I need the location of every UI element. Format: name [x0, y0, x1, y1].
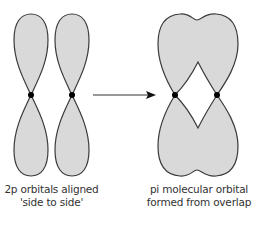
caption-line: 2p orbitals aligned [0, 183, 103, 196]
nucleus-right-1 [172, 92, 178, 98]
caption-line: pi molecular orbital [143, 183, 255, 196]
caption-p-orbitals: 2p orbitals aligned 'side to side' [0, 183, 103, 209]
pi-lobe-lower [158, 95, 238, 176]
lobe-lower [55, 95, 89, 176]
caption-line: 'side to side' [0, 196, 103, 209]
caption-line: formed from overlap [143, 196, 255, 209]
lobe-lower [14, 95, 48, 176]
nucleus-left-2 [69, 92, 75, 98]
nucleus-left-1 [28, 92, 34, 98]
pi-lobe-upper [158, 14, 238, 95]
pi-molecular-orbital [158, 14, 238, 176]
caption-pi-orbital: pi molecular orbital formed from overlap [143, 183, 255, 209]
lobe-upper [55, 14, 89, 95]
lobe-upper [14, 14, 48, 95]
nucleus-right-2 [214, 92, 220, 98]
arrow [93, 91, 156, 99]
